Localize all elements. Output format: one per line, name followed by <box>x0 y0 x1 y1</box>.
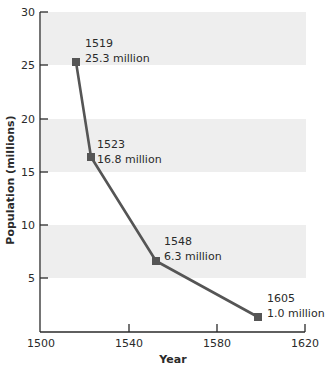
annotation-year: 1519 <box>85 37 113 50</box>
x-tick-labels: 1500 1540 1580 1620 <box>27 337 319 350</box>
annotation-value: 1.0 million <box>267 307 325 320</box>
data-markers <box>72 58 262 321</box>
annotation-value: 6.3 million <box>164 250 222 263</box>
x-tick-label: 1620 <box>291 337 319 350</box>
y-axis-title: Population (millions) <box>4 115 17 244</box>
annotation-year: 1523 <box>97 138 125 151</box>
annotation-value: 16.8 million <box>97 153 162 166</box>
y-tick-label: 25 <box>21 59 35 72</box>
marker-1605 <box>254 313 262 321</box>
marker-1519 <box>72 58 80 66</box>
annotation-year: 1605 <box>267 292 295 305</box>
population-line <box>76 62 258 317</box>
annotation-value: 25.3 million <box>85 52 150 65</box>
y-tick-label: 20 <box>21 113 35 126</box>
marker-1523 <box>87 153 95 161</box>
y-tick-label: 30 <box>21 6 35 19</box>
x-tick-label: 1580 <box>203 337 231 350</box>
x-axis-title: Year <box>158 353 187 366</box>
y-tick-label: 5 <box>28 272 35 285</box>
x-tick-label: 1500 <box>27 337 55 350</box>
annotation-year: 1548 <box>164 235 192 248</box>
y-tick-label: 10 <box>21 219 35 232</box>
marker-1548 <box>152 257 160 265</box>
y-tick-labels: 30 25 20 15 10 5 <box>21 6 35 285</box>
y-tick-label: 15 <box>21 166 35 179</box>
band-25-30 <box>41 12 306 65</box>
band-15-20 <box>41 119 306 172</box>
population-chart: 30 25 20 15 10 5 1500 1540 1580 1620 Yea… <box>0 0 325 371</box>
x-tick-label: 1540 <box>115 337 143 350</box>
